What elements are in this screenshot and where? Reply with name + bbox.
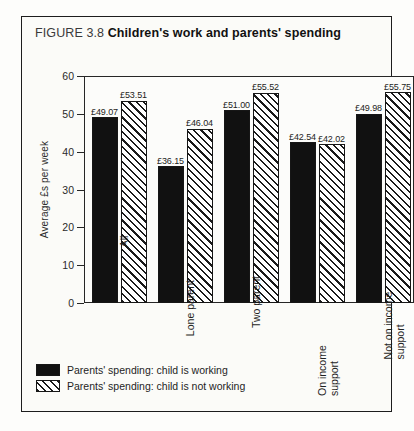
y-axis-tick-label: 0	[68, 297, 74, 309]
plot-area: 0102030405060 £49.07£53.51£36.15£46.04£5…	[84, 76, 414, 303]
bar-value-label: £42.02	[318, 134, 345, 144]
bar-group: £51.00£55.52	[224, 76, 279, 303]
legend-swatch-hatched	[36, 380, 60, 392]
y-axis-tick	[77, 114, 84, 115]
y-axis-tick	[77, 227, 84, 228]
figure-title: FIGURE 3.8 Children's work and parents' …	[35, 26, 341, 40]
legend-item: Parents' spending: child is not working	[36, 379, 336, 393]
bar-working: £36.15	[158, 166, 184, 303]
bar-value-label: £49.07	[91, 107, 118, 117]
y-axis-tick	[77, 152, 84, 153]
x-axis-category-label: All	[121, 224, 133, 310]
legend-label: Parents' spending: child is not working	[67, 380, 245, 392]
bar-group: £36.15£46.04	[158, 76, 213, 303]
y-axis-tick	[77, 265, 84, 266]
bar-working: £49.98	[356, 114, 382, 303]
y-axis-tick-label: 30	[62, 184, 74, 196]
bar-group: £49.07£53.51	[92, 76, 147, 303]
figure-caption: Children's work and parents' spending	[108, 26, 341, 40]
y-axis-tick	[77, 190, 84, 191]
legend-swatch-solid	[36, 364, 60, 376]
y-axis-tick-label: 50	[62, 108, 74, 120]
bar-value-label: £42.54	[289, 132, 316, 142]
figure-number: FIGURE 3.8	[35, 26, 104, 40]
legend-item: Parents' spending: child is working	[36, 363, 336, 377]
y-axis-tick	[77, 76, 84, 77]
y-axis-tick-label: 10	[62, 259, 74, 271]
x-axis-category-label: Two parent	[253, 224, 265, 310]
bar-value-label: £51.00	[223, 100, 250, 110]
bar-value-label: £53.51	[120, 90, 147, 100]
bar-value-label: £36.15	[157, 156, 184, 166]
bar-working: £51.00	[224, 110, 250, 303]
x-axis-category-label: Lone parent	[187, 224, 199, 310]
bar-value-label: £55.52	[252, 82, 279, 92]
bar-working: £49.07	[92, 117, 118, 303]
y-axis-tick-label: 40	[62, 146, 74, 158]
bar-working: £42.54	[290, 142, 316, 303]
chart-legend: Parents' spending: child is workingParen…	[36, 363, 336, 395]
bar-value-label: £55.75	[384, 82, 411, 92]
y-axis-title: Average £s per week	[39, 76, 52, 303]
bar-value-label: £46.04	[186, 118, 213, 128]
bar-value-label: £49.98	[355, 103, 382, 113]
y-axis-tick	[77, 303, 84, 304]
x-axis-category-label: On income support	[319, 224, 342, 310]
figure-frame: FIGURE 3.8 Children's work and parents' …	[21, 16, 392, 412]
x-axis-category-label: Not on income support	[385, 224, 408, 310]
y-axis-tick-label: 20	[62, 221, 74, 233]
y-axis-tick-label: 60	[62, 70, 74, 82]
legend-label: Parents' spending: child is working	[67, 364, 228, 376]
